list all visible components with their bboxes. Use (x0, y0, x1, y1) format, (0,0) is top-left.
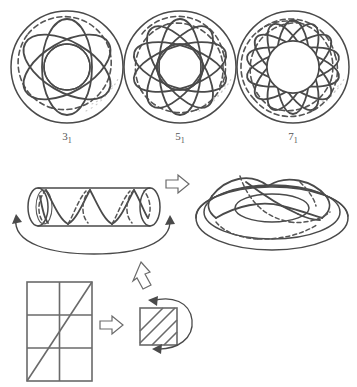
outer-circle-3-1 (11, 11, 123, 123)
arrow-right-cylinder-to-torus (166, 175, 189, 193)
hatch-lines (140, 308, 177, 345)
knot-label-5-1: 51 (160, 130, 200, 145)
cylinder-wrap-arrow (12, 214, 175, 254)
arrow-right-grid-to-square (100, 316, 123, 334)
torus-knot-7-1 (237, 11, 349, 123)
cylinder-left-cap (28, 188, 48, 226)
inner-circle-top-3-1 (44, 44, 90, 90)
inner-circle-top-7-1 (267, 41, 319, 93)
knot-label-3-1: 31 (47, 130, 87, 145)
torus-knot-3-1 (11, 11, 123, 123)
torus-outer-top-rim (196, 187, 348, 218)
torus-knot-5-1 (124, 11, 236, 123)
knot-label-7-1-sub: 1 (294, 136, 298, 145)
knot-label-7-1: 71 (273, 130, 313, 145)
fundamental-domain-grid (27, 282, 92, 381)
knot-label-3-1-sub: 1 (68, 136, 72, 145)
rotation-arrowhead-top (148, 296, 158, 306)
figure-canvas: .s { fill:none; stroke:#4a4a4a; stroke-w… (0, 0, 357, 387)
outer-circle-5-1 (124, 11, 236, 123)
inner-circle-top-5-1 (157, 44, 203, 90)
helix-front-strands (40, 190, 148, 224)
torus-knot-figure: .s { fill:none; stroke:#4a4a4a; stroke-w… (0, 0, 357, 387)
hatched-square (140, 296, 192, 354)
wrap-arrowhead-left (12, 214, 22, 224)
torus-mid-rim (204, 185, 340, 239)
knot-label-5-1-sub: 1 (181, 136, 185, 145)
cylinder-with-helix (12, 188, 175, 254)
torus-with-knot (196, 176, 348, 250)
wrap-arrowhead-right (165, 215, 175, 225)
arrow-up-square-to-cylinder (133, 262, 151, 289)
torus-hole (235, 194, 309, 222)
